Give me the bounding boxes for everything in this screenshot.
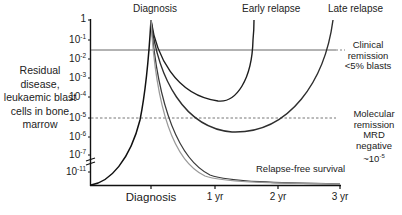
y-tick-1e-6: 10-6 — [56, 130, 86, 142]
y-tick-1: 1 — [56, 13, 86, 24]
mol-line-5: ~10-5 — [341, 151, 402, 165]
mol-line-3: MRD — [341, 130, 402, 141]
annotation-late-relapse: Late relapse — [328, 3, 383, 14]
y-tick-1e-5: 10-5 — [56, 111, 86, 123]
annotation-early-relapse: Early relapse — [242, 3, 300, 14]
annotation-molecular-remission: Molecular remission MRD negative ~10-5 — [341, 109, 402, 165]
series-late-relapse — [151, 20, 333, 132]
y-tick-1e-1: 10-1 — [56, 33, 86, 45]
clinical-line-3: <5% blasts — [335, 61, 401, 72]
annotation-clinical-remission: Clinical remission <5% blasts — [335, 40, 401, 72]
x-tick-2yr: 2 yr — [248, 191, 308, 202]
annotation-diagnosis: Diagnosis — [133, 3, 177, 14]
y-tick-1e-2: 10-2 — [56, 52, 86, 64]
y-tick-1e-3: 10-3 — [56, 71, 86, 83]
x-tick-1yr: 1 yr — [185, 191, 245, 202]
clinical-line-1: Clinical — [335, 40, 401, 51]
y-tick-1e-7: 10-7 — [56, 148, 86, 160]
mol-line-4: negative — [341, 141, 402, 152]
x-tick-3yr: 3 yr — [310, 191, 370, 202]
y-tick-1e-11: 10-11 — [56, 165, 86, 177]
y-tick-1e-4: 10-4 — [56, 90, 86, 102]
x-tick-diagnosis: Diagnosis — [121, 191, 181, 203]
mol-line-1: Molecular — [341, 109, 402, 120]
series-early-relapse — [151, 20, 254, 101]
annotation-relapse-free-survival: Relapse-free survival — [256, 163, 345, 174]
series-disease-onset — [91, 20, 151, 185]
